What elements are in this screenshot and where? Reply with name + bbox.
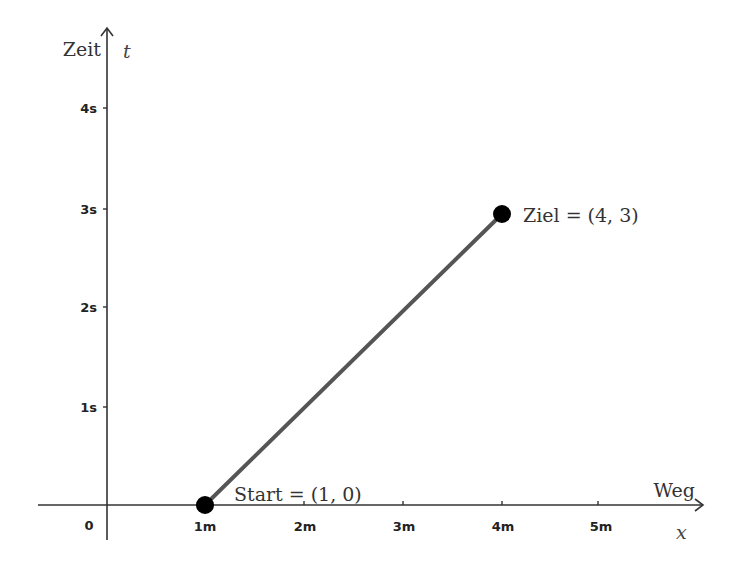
- distance-time-chart: 1m 2m 3m 4m 5m 1s 2s 3s 4s 0 Zeit t Weg …: [0, 0, 738, 572]
- point-ziel-label: Ziel = (4, 3): [523, 204, 639, 226]
- x-tick-label: 1m: [194, 519, 217, 534]
- x-tick-label: 2m: [294, 519, 317, 534]
- origin-label: 0: [84, 518, 93, 533]
- x-axis-title: Weg: [654, 479, 695, 501]
- x-tick-label: 4m: [492, 519, 515, 534]
- y-tick-labels: 1s 2s 3s 4s: [80, 101, 97, 415]
- x-axis-variable: x: [676, 521, 687, 543]
- point-start-label: Start = (1, 0): [234, 483, 362, 505]
- point-ziel[interactable]: [493, 205, 511, 223]
- x-tick-label: 5m: [590, 519, 613, 534]
- y-tick-label: 3s: [80, 202, 97, 217]
- y-axis-variable: t: [123, 40, 131, 62]
- x-tick-labels: 1m 2m 3m 4m 5m: [194, 519, 613, 534]
- y-tick-label: 2s: [80, 300, 97, 315]
- y-tick-label: 1s: [80, 400, 97, 415]
- axes: [38, 28, 703, 540]
- y-tick-label: 4s: [80, 101, 97, 116]
- y-axis-title: Zeit: [63, 38, 102, 60]
- point-start[interactable]: [196, 496, 214, 514]
- x-tick-label: 3m: [393, 519, 416, 534]
- segment-start-ziel: [205, 214, 502, 505]
